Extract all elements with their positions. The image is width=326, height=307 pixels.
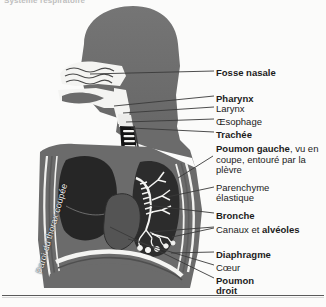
footer-rule-shadow (2, 297, 324, 298)
label-trachee: Trachée (216, 130, 252, 141)
label-canaux-plain: Canaux et (216, 224, 262, 235)
footer-rule (2, 295, 324, 296)
label-poumon-gauche: Poumon gauche, vu en coupe, entouré par … (216, 144, 320, 176)
label-canaux-alveoles: Canaux et alvéoles (216, 225, 299, 236)
label-larynx: Larynx (216, 104, 245, 115)
label-coeur: Cœur (216, 263, 240, 274)
label-alveoles-bold: alvéoles (262, 224, 300, 235)
label-bronche: Bronche (216, 211, 255, 222)
label-diaphragme: Diaphragme (216, 250, 271, 261)
larynx (118, 114, 133, 127)
label-oesophage: Œsophage (216, 117, 262, 128)
label-elastique: élastique (216, 193, 254, 204)
label-fosse-nasale: Fosse nasale (216, 68, 276, 79)
respiratory-system-figure: Système respiratoire (0, 0, 326, 307)
label-poumon-gauche-bold: Poumon gauche (216, 143, 290, 154)
